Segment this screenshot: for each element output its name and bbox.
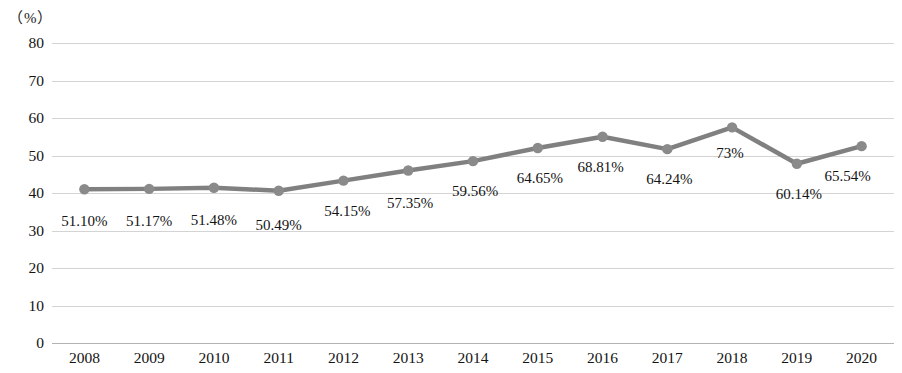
data-point-label: 64.65% [517,170,563,187]
x-axis-tick-label: 2008 [69,349,100,367]
data-point-marker [209,183,219,193]
y-axis-tick-label: 40 [6,184,44,202]
x-axis-tick-label: 2016 [587,349,618,367]
data-point-marker [468,156,478,166]
x-axis-tick-label: 2009 [134,349,165,367]
data-point-marker [856,141,866,151]
data-point-label: 73% [716,145,744,162]
data-point-label: 65.54% [824,168,870,185]
line-chart: （%） 01020304050607080 51.10%51.17%51.48%… [0,0,902,373]
y-axis-tick-label: 30 [6,222,44,240]
y-axis-tick-label: 60 [6,109,44,127]
data-point-label: 50.49% [256,217,302,234]
data-point-label: 60.14% [776,186,822,203]
data-point-label: 51.10% [61,213,107,230]
x-axis-tick-label: 2017 [652,349,683,367]
data-point-marker [273,186,283,196]
y-axis-tick-label: 10 [6,297,44,315]
y-axis-tick-label: 20 [6,259,44,277]
plot-area: 01020304050607080 51.10%51.17%51.48%50.4… [52,43,894,343]
data-point-marker [533,143,543,153]
data-point-label: 54.15% [324,203,370,220]
data-point-marker [792,159,802,169]
gridline [52,343,894,344]
x-axis-tick-label: 2010 [198,349,229,367]
x-axis-tick-label: 2015 [522,349,553,367]
x-axis-tick-label: 2019 [781,349,812,367]
data-point-label: 51.48% [191,212,237,229]
data-point-label: 57.35% [387,195,433,212]
y-axis-tick-label: 50 [6,147,44,165]
data-point-marker [662,144,672,154]
x-axis-tick-label: 2020 [846,349,877,367]
x-axis-tick-label: 2014 [458,349,489,367]
x-axis-tick-label: 2012 [328,349,359,367]
data-point-marker [79,184,89,194]
y-axis-tick-label: 0 [6,334,44,352]
y-axis-tick-label: 70 [6,72,44,90]
data-point-marker [144,184,154,194]
data-point-label: 68.81% [577,159,623,176]
data-point-marker [338,175,348,185]
y-axis-tick-label: 80 [6,34,44,52]
data-point-marker [597,132,607,142]
x-axis-tick-label: 2011 [263,349,293,367]
data-point-label: 64.24% [646,171,692,188]
data-point-marker [403,165,413,175]
data-point-label: 59.56% [452,183,498,200]
x-axis-tick-label: 2018 [717,349,748,367]
x-axis-tick-label: 2013 [393,349,424,367]
y-axis-unit-label: （%） [8,6,54,27]
data-point-marker [727,122,737,132]
data-point-label: 51.17% [126,213,172,230]
